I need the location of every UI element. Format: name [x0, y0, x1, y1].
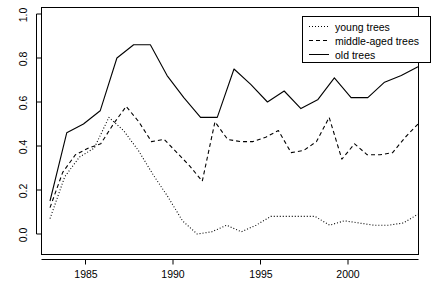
data-series-layer: [50, 45, 418, 234]
y-tick-label-0.2: 0.2: [17, 180, 29, 202]
x-tick-label-1985: 1985: [70, 268, 102, 280]
x-tick-label-1995: 1995: [245, 268, 277, 280]
series-line-young-trees: [50, 117, 418, 234]
x-axis: [42, 260, 419, 265]
y-tick-label-0.8: 0.8: [17, 48, 29, 70]
x-tick-label-1990: 1990: [157, 268, 189, 280]
y-tick-label-0.0: 0.0: [17, 224, 29, 246]
legend-label-old-trees: old trees: [335, 49, 375, 61]
series-line-middle-aged-trees: [50, 106, 418, 207]
y-tick-label-0.6: 0.6: [17, 92, 29, 114]
y-tick-label-0.4: 0.4: [17, 136, 29, 158]
legend-label-middle-aged-trees: middle-aged trees: [335, 35, 419, 47]
chart-container: 1.0 0.8 0.6 0.4 0.2 0.0 1985 1990 1995 2…: [0, 0, 438, 294]
y-tick-label-1.0: 1.0: [17, 4, 29, 26]
legend-label-young-trees: young trees: [335, 21, 390, 33]
series-line-old-trees: [50, 45, 418, 201]
x-tick-label-2000: 2000: [332, 268, 364, 280]
y-axis: [37, 14, 42, 234]
